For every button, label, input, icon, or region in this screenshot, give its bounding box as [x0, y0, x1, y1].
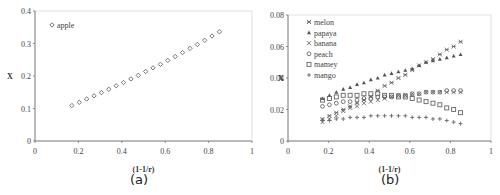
- mango-marker: [348, 115, 352, 119]
- y-tick-label: 0.02: [270, 106, 284, 115]
- chart-a: 00.20.40.60.8100.10.20.30.4(1-1/r)Xapple: [7, 7, 254, 174]
- papaya-marker: [452, 54, 456, 58]
- mamey-marker: [431, 101, 435, 105]
- apple-marker: [210, 34, 214, 38]
- mamey-marker: [445, 106, 449, 110]
- mango-marker: [396, 114, 400, 118]
- mango-marker: [355, 115, 359, 119]
- papaya-marker: [341, 87, 345, 91]
- y-tick-label: 0.06: [270, 43, 284, 52]
- y-tick-label: 0: [27, 137, 31, 146]
- legend-mamey-marker: [307, 62, 311, 66]
- y-tick-label: 0.1: [21, 105, 31, 114]
- apple-marker: [114, 84, 118, 88]
- caption-b: (b): [381, 172, 399, 187]
- banana-marker: [362, 101, 366, 105]
- caption-a: (a): [130, 172, 148, 187]
- papaya-marker: [438, 57, 442, 61]
- mango-marker: [369, 114, 373, 118]
- apple-marker: [173, 54, 177, 58]
- papaya-marker: [376, 76, 380, 80]
- papaya-marker: [362, 81, 366, 85]
- x-tick-label: 0.4: [364, 147, 374, 156]
- mamey-marker: [334, 95, 338, 99]
- melon-marker: [459, 40, 463, 44]
- legend-label-mango: mango: [314, 71, 336, 80]
- mamey-marker: [438, 103, 442, 107]
- papaya-marker: [390, 71, 394, 75]
- legend-label-peach: peach: [314, 50, 333, 59]
- chart-b: 00.20.40.60.8100.020.040.060.08(1-1/r)Xm…: [270, 11, 493, 174]
- mamey-marker: [348, 93, 352, 97]
- apple-marker: [121, 80, 125, 84]
- apple-marker: [166, 58, 170, 62]
- x-tick-label: 1: [250, 147, 254, 156]
- x-tick-label: 0.6: [405, 147, 415, 156]
- x-tick-label: 0: [286, 147, 290, 156]
- apple-marker: [158, 62, 162, 66]
- legend-apple-marker: [50, 23, 54, 27]
- mamey-marker: [459, 111, 463, 115]
- series-peach: [321, 89, 463, 109]
- apple-marker: [92, 94, 96, 98]
- apple-marker: [217, 30, 221, 34]
- melon-marker: [445, 48, 449, 52]
- legend: apple: [50, 21, 75, 30]
- y-tick-label: 0.08: [270, 11, 284, 20]
- melon-marker: [403, 73, 407, 77]
- mamey-marker: [355, 93, 359, 97]
- legend-papaya-marker: [307, 31, 311, 35]
- x-tick-label: 0.4: [117, 147, 127, 156]
- mango-marker: [417, 115, 421, 119]
- plot-area: [35, 11, 252, 141]
- x-tick-label: 0.8: [204, 147, 214, 156]
- legend: melonpapayabananapeachmameymango: [307, 18, 338, 80]
- papaya-marker: [348, 85, 352, 89]
- melon-marker: [396, 76, 400, 80]
- mamey-marker: [452, 108, 456, 112]
- mango-marker: [341, 117, 345, 121]
- apple-marker: [70, 103, 74, 107]
- apple-marker: [129, 77, 133, 81]
- mamey-marker: [362, 92, 366, 96]
- mamey-marker: [327, 96, 331, 100]
- mango-marker: [445, 119, 449, 123]
- apple-marker: [151, 66, 155, 70]
- y-axis-label: X: [278, 74, 284, 83]
- papaya-marker: [403, 68, 407, 72]
- peach-marker: [334, 101, 338, 105]
- apple-marker: [195, 42, 199, 46]
- mango-marker: [459, 122, 463, 126]
- x-tick-label: 0.8: [445, 147, 455, 156]
- figure-canvas: 00.20.40.60.8100.10.20.30.4(1-1/r)Xapple…: [0, 0, 500, 195]
- series-apple: [70, 30, 222, 108]
- legend-label-apple: apple: [57, 21, 75, 30]
- mango-marker: [383, 114, 387, 118]
- melon-marker: [452, 45, 456, 49]
- x-tick-label: 0: [33, 147, 37, 156]
- mango-marker: [362, 115, 366, 119]
- legend-melon-marker: [307, 20, 311, 24]
- x-tick-label: 0.6: [160, 147, 170, 156]
- legend-label-melon: melon: [314, 18, 334, 27]
- apple-marker: [136, 73, 140, 77]
- apple-marker: [99, 90, 103, 94]
- peach-marker: [321, 104, 325, 108]
- y-tick-label: 0.3: [21, 40, 31, 49]
- mango-marker: [403, 114, 407, 118]
- papaya-marker: [334, 90, 338, 94]
- y-tick-label: 0.2: [21, 72, 31, 81]
- legend-banana-marker: [307, 41, 311, 45]
- papaya-marker: [445, 56, 449, 60]
- papaya-marker: [396, 70, 400, 74]
- melon-marker: [390, 81, 394, 85]
- peach-marker: [328, 103, 332, 107]
- papaya-marker: [383, 73, 387, 77]
- papaya-marker: [459, 52, 463, 56]
- papaya-marker: [369, 78, 373, 82]
- mango-marker: [431, 117, 435, 121]
- y-tick-label: 0.4: [21, 7, 31, 16]
- series-melon: [321, 40, 463, 121]
- apple-marker: [143, 69, 147, 73]
- peach-marker: [341, 100, 345, 104]
